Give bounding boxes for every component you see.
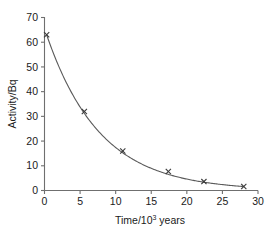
- y-tick-label: 20: [26, 135, 38, 147]
- chart-axes: [44, 17, 258, 191]
- y-axis-title-label: Activity/Bq: [6, 79, 18, 128]
- y-axis-tick-labels: 010203040506070: [26, 11, 38, 196]
- x-tick-label: 25: [217, 195, 229, 207]
- y-tick-label: 70: [26, 11, 38, 23]
- x-tick-label: 20: [181, 195, 193, 207]
- x-tick-label: 15: [145, 195, 157, 207]
- y-tick-label: 40: [26, 85, 38, 97]
- y-tick-label: 60: [26, 36, 38, 48]
- x-tick-label: 0: [42, 195, 48, 207]
- x-tick-label: 30: [252, 195, 264, 207]
- decay-curve: [47, 35, 244, 187]
- y-axis-title: Activity/Bq: [6, 79, 18, 128]
- y-tick-label: 0: [32, 184, 38, 196]
- data-point-marker: [166, 169, 171, 174]
- y-tick-label: 10: [26, 159, 38, 171]
- x-axis-title: Time/103 years: [115, 214, 185, 226]
- x-axis-tick-labels: 051015202530: [42, 195, 264, 207]
- y-tick-label: 50: [26, 61, 38, 73]
- y-tick-label: 30: [26, 110, 38, 122]
- x-axis-title-label: Time/103 years: [115, 214, 185, 226]
- x-axis-title-suffix: years: [156, 214, 185, 226]
- x-tick-label: 10: [110, 195, 122, 207]
- x-axis-title-main: Time/10: [115, 214, 153, 226]
- chart-canvas: 010203040506070 051015202530 Activity/Bq…: [0, 0, 277, 235]
- x-tick-label: 5: [77, 195, 83, 207]
- radioactive-decay-chart: 010203040506070 051015202530 Activity/Bq…: [0, 0, 277, 235]
